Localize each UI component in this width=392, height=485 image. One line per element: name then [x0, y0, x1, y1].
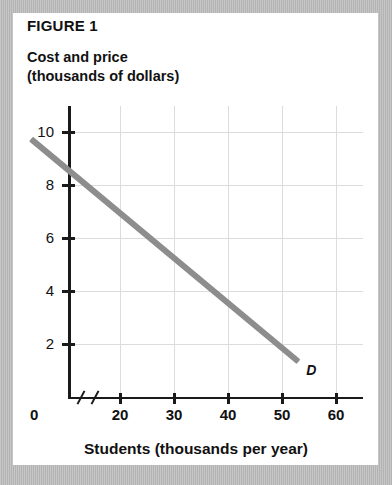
x-axis-title: Students (thousands per year) — [0, 440, 392, 458]
y-tick-label-4: 4 — [28, 282, 54, 299]
y-tick-label-6: 6 — [28, 229, 54, 246]
origin-label: 0 — [30, 406, 38, 423]
x-tick-50 — [281, 393, 284, 404]
curve-label-d: D — [306, 362, 316, 378]
gridline-h-10 — [68, 132, 363, 133]
x-tick-30 — [173, 393, 176, 404]
gridline-v-30 — [174, 106, 175, 397]
x-tick-60 — [335, 393, 338, 404]
x-tick-label-60: 60 — [319, 406, 353, 423]
x-tick-label-40: 40 — [211, 406, 245, 423]
gridline-h-6 — [68, 238, 363, 239]
plot-area: 10 8 6 4 2 20 30 40 50 60 0 D — [0, 0, 392, 485]
x-tick-label-20: 20 — [103, 406, 137, 423]
y-tick-8 — [62, 184, 75, 187]
gridline-v-60 — [336, 106, 337, 397]
y-tick-label-8: 8 — [28, 176, 54, 193]
x-tick-label-30: 30 — [157, 406, 191, 423]
gridline-h-8 — [68, 185, 363, 186]
y-tick-10 — [62, 131, 75, 134]
y-tick-6 — [62, 237, 75, 240]
x-tick-20 — [119, 393, 122, 404]
x-tick-40 — [227, 393, 230, 404]
y-tick-4 — [62, 290, 75, 293]
x-tick-label-50: 50 — [265, 406, 299, 423]
y-tick-label-2: 2 — [28, 335, 54, 352]
gridline-v-40 — [228, 106, 229, 397]
y-tick-2 — [62, 343, 75, 346]
gridline-h-2 — [68, 344, 363, 345]
y-axis-line — [68, 106, 71, 399]
gridline-v-20 — [120, 106, 121, 397]
x-axis-line — [68, 397, 363, 400]
